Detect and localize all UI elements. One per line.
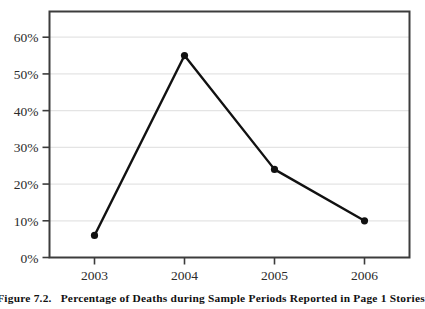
y-axis-tick-label: 30% xyxy=(14,140,39,155)
y-axis-tick-label: 10% xyxy=(14,214,39,229)
figure-caption-inner: Figure 7.2. Percentage of Deaths during … xyxy=(0,292,425,304)
chart-plot-area: 0%10%20%30%40%50%60% 2003200420052006 xyxy=(0,0,422,284)
y-axis-tick-label: 20% xyxy=(14,177,39,192)
y-axis-tick-label: 60% xyxy=(14,30,39,45)
data-point-marker xyxy=(91,232,98,239)
figure-caption-label: Figure 7.2. xyxy=(0,292,52,304)
data-point-marker xyxy=(361,217,368,224)
figure-caption: Figure 7.2. Percentage of Deaths during … xyxy=(0,286,422,309)
x-axis-tick-label: 2004 xyxy=(171,268,198,283)
x-axis-tick-label: 2003 xyxy=(81,268,108,283)
chart-background xyxy=(0,0,422,284)
figure-caption-text: Percentage of Deaths during Sample Perio… xyxy=(61,292,425,304)
x-axis-tick-label: 2006 xyxy=(351,268,378,283)
y-axis-tick-label: 50% xyxy=(14,67,39,82)
y-axis-tick-label: 0% xyxy=(21,251,39,266)
y-axis-tick-label: 40% xyxy=(14,104,39,119)
data-point-marker xyxy=(271,166,278,173)
line-chart-svg: 0%10%20%30%40%50%60% 2003200420052006 xyxy=(0,0,422,284)
x-axis-tick-label: 2005 xyxy=(261,268,288,283)
data-point-marker xyxy=(181,52,188,59)
